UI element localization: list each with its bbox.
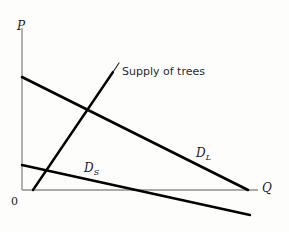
y-axis-label: P — [17, 20, 25, 32]
demand-short-run-label-main: D — [84, 161, 94, 175]
supply-demand-chart: P Q 0 Supply of trees DL DS — [0, 0, 289, 232]
demand-long-run-label: DL — [196, 147, 211, 162]
origin-label: 0 — [11, 196, 18, 207]
chart-plot-area — [0, 0, 289, 232]
supply-label-leader-line — [113, 63, 119, 72]
x-axis-label: Q — [262, 182, 272, 194]
demand-short-run-label: DS — [84, 162, 99, 177]
supply-curve-label: Supply of trees — [122, 66, 205, 77]
demand-long-run-label-main: D — [196, 146, 206, 160]
demand-short-run-label-subscript: S — [94, 168, 99, 177]
demand-long-run-label-subscript: L — [206, 153, 211, 162]
